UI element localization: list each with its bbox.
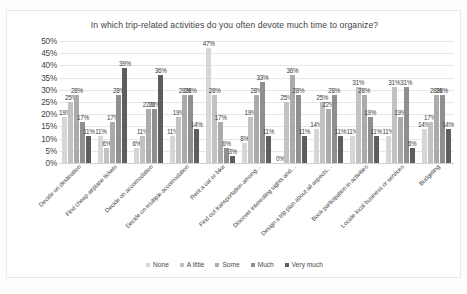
legend-label: Very much — [292, 261, 323, 268]
bar[interactable] — [398, 117, 403, 163]
bar[interactable] — [404, 87, 409, 163]
bar-slot: 36% — [158, 41, 163, 163]
bar-slot: 28% — [332, 41, 337, 163]
legend-swatch — [285, 263, 289, 267]
y-axis-tick-label: 20% — [41, 110, 57, 119]
legend-item[interactable]: None — [146, 261, 169, 268]
bar[interactable] — [374, 136, 379, 163]
bar[interactable] — [194, 129, 199, 163]
bar[interactable] — [104, 148, 109, 163]
bar-slot: 11% — [302, 41, 307, 163]
bar-group: 47%28%17%6%3% — [203, 41, 239, 163]
bar[interactable] — [338, 136, 343, 163]
bar[interactable] — [62, 117, 67, 163]
bar-slot: 17% — [428, 41, 433, 163]
bar[interactable] — [230, 156, 235, 163]
bar[interactable] — [440, 95, 445, 163]
bar[interactable] — [110, 122, 115, 163]
bar[interactable] — [152, 109, 157, 163]
plot-area: 19%25%28%17%11%11%6%17%28%39%6%11%22%22%… — [59, 41, 454, 163]
y-axis-tick-label: 30% — [41, 85, 57, 94]
legend-item[interactable]: Very much — [285, 261, 323, 268]
bar-slot: 14% — [446, 41, 451, 163]
bar[interactable] — [434, 95, 439, 163]
bar-slot: 11% — [374, 41, 379, 163]
bar[interactable] — [134, 148, 139, 163]
bar-slot: 14% — [422, 41, 427, 163]
bar-group: 11%31%19%31%6% — [382, 41, 418, 163]
bar[interactable] — [368, 117, 373, 163]
x-axis-tick-label: Locate local business or services — [339, 163, 405, 229]
bar[interactable] — [356, 87, 361, 163]
chart-container: In which trip-related activities do you … — [6, 10, 461, 278]
bar[interactable] — [446, 129, 451, 163]
bar[interactable] — [326, 109, 331, 163]
bar[interactable] — [392, 87, 397, 163]
bar-value-label: 11% — [83, 128, 94, 135]
chart-legend: NoneA littleSomeMuchVery much — [7, 261, 462, 268]
bar[interactable] — [266, 136, 271, 163]
bar-slot: 28% — [188, 41, 193, 163]
bar[interactable] — [140, 136, 145, 163]
bar[interactable] — [122, 68, 127, 163]
bar[interactable] — [182, 95, 187, 163]
bar-slot: 28% — [434, 41, 439, 163]
bar-value-label: 11% — [299, 128, 310, 135]
legend-item[interactable]: A little — [180, 261, 205, 268]
bar-slot: 31% — [392, 41, 397, 163]
bar-slot: 11% — [86, 41, 91, 163]
x-axis-tick-label: Rent a car or bike — [188, 163, 226, 201]
bar[interactable] — [260, 82, 265, 163]
bar[interactable] — [410, 148, 415, 163]
bar[interactable] — [284, 102, 289, 163]
y-axis-tick-label: 10% — [41, 134, 57, 143]
bar[interactable] — [386, 136, 391, 163]
bar[interactable] — [176, 117, 181, 163]
bar[interactable] — [68, 102, 73, 163]
bar-slot: 28% — [296, 41, 301, 163]
bar-slot: 6% — [104, 41, 109, 163]
bar-slot: 11% — [266, 41, 271, 163]
bar[interactable] — [248, 117, 253, 163]
bar-slot: 25% — [68, 41, 73, 163]
bar[interactable] — [206, 48, 211, 163]
bar-group: 6%11%22%22%36% — [131, 41, 167, 163]
bar[interactable] — [350, 136, 355, 163]
bar-value-label: 11% — [335, 128, 346, 135]
bar-value-label: 36% — [155, 67, 167, 74]
bar[interactable] — [74, 95, 79, 163]
bar-slot: 28% — [440, 41, 445, 163]
bar-value-label: 3% — [228, 148, 237, 155]
legend-item[interactable]: Much — [251, 261, 274, 268]
bar-slot: 14% — [314, 41, 319, 163]
y-axis-tick-label: 50% — [41, 37, 57, 46]
y-axis-tick-label: 0% — [46, 159, 57, 168]
bar[interactable] — [86, 136, 91, 163]
legend-label: Much — [258, 261, 274, 268]
bar[interactable] — [428, 122, 433, 163]
legend-item[interactable]: Some — [215, 261, 239, 268]
bar-slot: 19% — [248, 41, 253, 163]
bar[interactable] — [320, 102, 325, 163]
bar-value-label: 11% — [263, 128, 274, 135]
bar[interactable] — [242, 143, 247, 163]
y-axis-tick-label: 5% — [46, 146, 57, 155]
bar[interactable] — [362, 95, 367, 163]
x-axis-tick-label: Decide on multiple accomodation — [123, 163, 189, 229]
bar[interactable] — [146, 109, 151, 163]
bar-slot: 11% — [350, 41, 355, 163]
x-axis-tick-label: Discover interesting sights and… — [232, 163, 298, 229]
bar-slot: 17% — [110, 41, 115, 163]
bar[interactable] — [116, 95, 121, 163]
bar[interactable] — [212, 95, 217, 163]
bar[interactable] — [188, 95, 193, 163]
y-axis-tick-label: 15% — [41, 122, 57, 131]
bar[interactable] — [170, 136, 175, 163]
bar-slot: 36% — [290, 41, 295, 163]
bar[interactable] — [422, 129, 427, 163]
bar[interactable] — [302, 136, 307, 163]
bar[interactable] — [254, 95, 259, 163]
legend-swatch — [180, 263, 184, 267]
bar[interactable] — [158, 75, 163, 163]
bar[interactable] — [314, 129, 319, 163]
